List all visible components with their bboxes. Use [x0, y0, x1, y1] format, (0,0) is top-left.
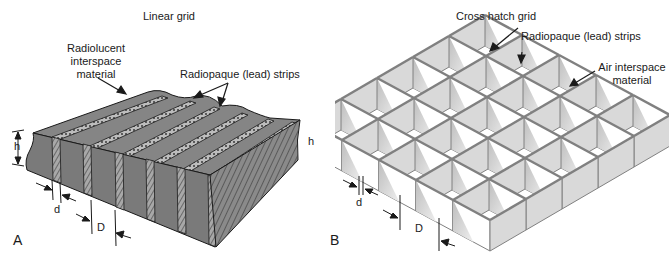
height-label-b: h [308, 135, 314, 148]
strip-period-label: D [97, 221, 105, 234]
interspace-callout-line3: material [63, 68, 129, 81]
panel-a-letter: A [13, 234, 22, 247]
height-label: h [14, 140, 20, 153]
linear-grid-panel: Linear grid Radiolucent interspace mater… [0, 0, 335, 261]
linear-grid-title: Linear grid [143, 10, 195, 23]
cross-hatch-grid-panel: Cross hatch grid Radiopaque (lead) strip… [335, 0, 669, 261]
air-interspace-callout-line1: Air interspace [593, 61, 669, 74]
air-interspace-callout: Air interspace material [593, 61, 669, 87]
interspace-callout-line1: Radiolucent [63, 42, 129, 55]
air-interspace-callout-line2: material [593, 74, 669, 87]
panel-b-letter: B [330, 234, 339, 247]
lattice [335, 15, 669, 251]
strip-period-label-b: D [415, 222, 423, 235]
lead-strips-callout: Radiopaque (lead) strips [180, 68, 300, 81]
strip-width-label: d [54, 203, 60, 216]
interspace-callout-line2: interspace [63, 55, 129, 68]
interspace-callout: Radiolucent interspace material [63, 42, 129, 81]
cross-hatch-grid-title: Cross hatch grid [456, 10, 536, 23]
linear-grid-illustration [0, 0, 335, 261]
lead-strips-callout-b: Radiopaque (lead) strips [521, 30, 641, 43]
strip-width-label-b: d [356, 196, 362, 209]
